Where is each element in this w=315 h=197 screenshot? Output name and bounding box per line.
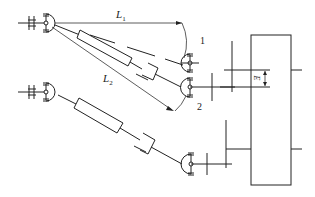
label-position-2: 2: [197, 102, 202, 112]
joint-position-1: [181, 54, 199, 72]
label-position-1: 1: [200, 36, 205, 46]
drive-shaft-diagram: [0, 0, 315, 197]
lower-input-universal-joint: [18, 83, 55, 101]
label-l2-sub: 2: [109, 79, 113, 87]
lower-drive-shaft: [58, 95, 182, 164]
dimension-l2: [52, 27, 186, 111]
upper-input-universal-joint: [18, 14, 55, 32]
label-l2: L2: [103, 73, 113, 87]
lower-output-joint: [181, 153, 232, 175]
label-offset-e: E: [252, 76, 260, 81]
upper-drive-shaft: [55, 25, 181, 87]
gearbox: [220, 35, 302, 185]
label-l1-sub: 1: [122, 15, 126, 23]
label-l1: L1: [116, 9, 126, 23]
